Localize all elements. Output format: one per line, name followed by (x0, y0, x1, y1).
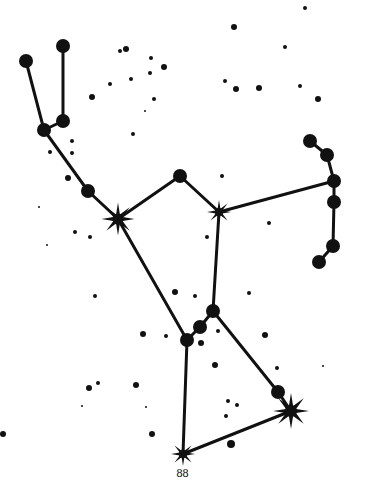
bright-star-core (179, 450, 187, 458)
major-star-dot (37, 123, 51, 137)
minor-star-dot (108, 82, 112, 86)
constellation-line (26, 61, 44, 130)
minor-star-dot (223, 79, 227, 83)
bright-star-core (285, 405, 297, 417)
minor-star-dot (205, 235, 209, 239)
constellation-line (183, 340, 187, 454)
major-star-dot (312, 255, 326, 269)
minor-star-dot (93, 294, 97, 298)
major-star-dot (81, 184, 95, 198)
minor-star-dot (123, 46, 129, 52)
minor-star-dot (133, 382, 139, 388)
page-number: 88 (0, 466, 365, 481)
major-star-dot (271, 385, 285, 399)
minor-star-dot (216, 329, 220, 333)
major-star-dot (193, 320, 207, 334)
minor-star-dot (88, 235, 92, 239)
minor-star-dot (275, 366, 279, 370)
minor-star-dot (152, 97, 156, 101)
constellation-diagram: 88 (0, 0, 365, 500)
minor-star-dot (86, 385, 92, 391)
constellation-line (118, 176, 180, 219)
minor-star-dot (70, 139, 74, 143)
minor-star-dot (283, 45, 287, 49)
minor-star-dot (129, 77, 133, 81)
major-star-dot (180, 333, 194, 347)
minor-star-dot (315, 96, 321, 102)
constellation-line (213, 212, 219, 311)
major-star-dot (19, 54, 33, 68)
minor-star-dot (193, 294, 197, 298)
minor-star-dot (233, 86, 239, 92)
minor-star-dot (145, 406, 147, 408)
minor-star-dot (226, 399, 230, 403)
bright-star-core (113, 214, 124, 225)
minor-star-dot (262, 332, 268, 338)
minor-star-dot (172, 289, 178, 295)
minor-star-dot (96, 381, 100, 385)
major-star-dot (320, 148, 334, 162)
minor-star-dot (149, 431, 155, 437)
major-star-dot (173, 169, 187, 183)
minor-star-dot (149, 56, 153, 60)
constellation-line (183, 411, 291, 454)
major-star-dot (206, 304, 220, 318)
major-star-dot (303, 134, 317, 148)
minor-star-dot (161, 64, 167, 70)
minor-star-dot (298, 84, 302, 88)
minor-star-dot (81, 405, 83, 407)
minor-star-dot (235, 403, 239, 407)
bright-star-core (215, 208, 223, 216)
minor-star-dot (227, 440, 235, 448)
minor-star-dot (220, 174, 224, 178)
minor-star-dot (131, 132, 135, 136)
minor-star-dot (198, 340, 204, 346)
minor-star-dot (224, 414, 228, 418)
major-star-dot (56, 114, 70, 128)
minor-star-dot (65, 175, 71, 181)
minor-star-dot (48, 150, 52, 154)
constellation-line (219, 181, 334, 212)
minor-star-dot (148, 71, 152, 75)
constellation-line (44, 130, 88, 191)
minor-star-dot (0, 431, 6, 437)
constellation-line (118, 219, 187, 340)
minor-star-dot (46, 244, 48, 246)
minor-star-dot (144, 110, 146, 112)
minor-star-dot (70, 151, 74, 155)
major-star-dot (327, 174, 341, 188)
minor-star-dot (118, 49, 122, 53)
minor-star-dot (322, 365, 324, 367)
major-star-dot (327, 195, 341, 209)
minor-star-dot (140, 331, 146, 337)
minor-star-dot (73, 230, 77, 234)
orion-constellation-figure (0, 0, 365, 500)
minor-star-dot (267, 221, 271, 225)
constellation-line (213, 311, 278, 392)
major-star-dot (56, 39, 70, 53)
minor-star-dot (89, 94, 95, 100)
minor-star-dot (164, 334, 168, 338)
minor-star-dot (38, 206, 40, 208)
minor-star-dot (247, 291, 251, 295)
minor-star-dot (303, 6, 307, 10)
minor-star-dot (256, 85, 262, 91)
minor-star-dot (212, 362, 218, 368)
minor-star-dot (231, 24, 237, 30)
major-star-dot (326, 239, 340, 253)
